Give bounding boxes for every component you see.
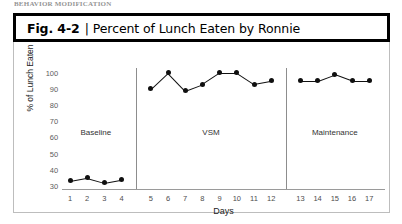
x-axis-tick-label: 3 [102, 194, 106, 203]
y-axis-tick-labels: 30405060708090100 [32, 42, 58, 192]
plot-area: BaselineVSMMaintenance [62, 42, 385, 192]
data-point-marker [367, 78, 372, 83]
y-axis-tick-label: 100 [32, 68, 58, 77]
data-point-marker [298, 78, 303, 83]
x-axis-tick-label: 6 [166, 194, 170, 203]
y-axis-tick-label: 40 [32, 165, 58, 174]
figure-container: Fig. 4-2|Percent of Lunch Eaten by Ronni… [13, 13, 390, 213]
x-axis-tick-label: 7 [183, 194, 187, 203]
x-axis-tick-label: 5 [149, 194, 153, 203]
x-axis-tick-label: 12 [267, 194, 275, 203]
figure-title-separator: | [85, 20, 89, 35]
running-head-text: BEHAVIOR MODIFICATION [14, 0, 224, 7]
figure-title-bar: Fig. 4-2|Percent of Lunch Eaten by Ronni… [13, 13, 390, 42]
data-point-marker [217, 70, 222, 75]
x-axis-tick-label: 15 [331, 194, 339, 203]
x-axis-tick-label: 13 [296, 194, 304, 203]
data-point-marker [315, 78, 320, 83]
y-axis-tick-label: 80 [32, 101, 58, 110]
x-axis-tick-labels: 1234567891011121314151617 [62, 194, 385, 206]
x-axis-title: Days [62, 206, 385, 216]
x-axis-tick-label: 8 [200, 194, 204, 203]
data-point-marker [102, 180, 107, 185]
chart-panel: % of Lunch Eaten 30405060708090100 Basel… [13, 42, 390, 213]
figure-title-text-group: Fig. 4-2|Percent of Lunch Eaten by Ronni… [27, 20, 300, 35]
x-axis-tick-label: 17 [365, 194, 373, 203]
figure-title-label: Percent of Lunch Eaten by Ronnie [93, 20, 300, 35]
y-axis-tick-label: 70 [32, 117, 58, 126]
data-point-marker [252, 82, 257, 87]
data-point-marker [119, 177, 124, 182]
x-axis-tick-label: 1 [68, 194, 72, 203]
data-line-segment [151, 73, 169, 90]
x-axis-tick-label: 16 [348, 194, 356, 203]
x-axis-tick-label: 11 [250, 194, 258, 203]
x-axis-tick-label: 14 [313, 194, 321, 203]
phase-label-baseline: Baseline [80, 128, 111, 137]
data-point-marker [68, 178, 73, 183]
data-point-marker [148, 86, 153, 91]
x-axis-tick-label: 10 [233, 194, 241, 203]
data-point-marker [350, 78, 355, 83]
phase-label-maintenance: Maintenance [312, 128, 358, 137]
y-axis-tick-label: 30 [32, 181, 58, 190]
y-axis-tick-label: 50 [32, 149, 58, 158]
data-point-marker [332, 72, 337, 77]
x-axis-tick-label: 9 [218, 194, 222, 203]
data-point-marker [200, 82, 205, 87]
phase-label-vsm: VSM [202, 128, 219, 137]
data-point-marker [183, 88, 188, 93]
data-point-marker [85, 175, 90, 180]
data-point-marker [269, 78, 274, 83]
y-axis-tick-label: 60 [32, 133, 58, 142]
data-point-marker [166, 70, 171, 75]
phase-divider-line [286, 68, 287, 189]
y-axis-tick-label: 90 [32, 84, 58, 93]
phase-divider-line [136, 68, 137, 189]
x-axis-tick-label: 2 [85, 194, 89, 203]
x-axis-tick-label: 4 [120, 194, 124, 203]
